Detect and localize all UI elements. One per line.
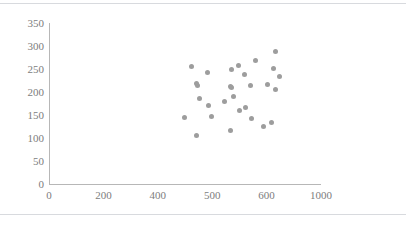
scatter-point — [194, 133, 199, 138]
scatter-point — [229, 85, 234, 90]
x-tick-label: 1000 — [299, 190, 343, 201]
scatter-point — [195, 83, 200, 88]
y-tick-label: 150 — [4, 110, 44, 121]
scatter-point — [269, 120, 274, 125]
y-tick-label: 300 — [4, 41, 44, 52]
scatter-point — [229, 67, 234, 72]
x-tick-label: 200 — [81, 190, 125, 201]
plot-area — [49, 23, 321, 184]
scatter-point — [271, 66, 276, 71]
scatter-point — [209, 114, 214, 119]
y-tick-label: 250 — [4, 64, 44, 75]
scatter-point — [222, 99, 227, 104]
scatter-point — [273, 87, 278, 92]
scatter-point — [236, 63, 241, 68]
scatter-point — [277, 74, 282, 79]
scatter-point — [249, 116, 254, 121]
x-tick-label: 600 — [245, 190, 289, 201]
y-tick-label: 350 — [4, 18, 44, 29]
scatter-chart: 050100150200250300350 02004005006001000 — [0, 0, 406, 231]
x-axis-line — [49, 184, 321, 185]
x-tick-label: 400 — [136, 190, 180, 201]
scatter-point — [243, 105, 248, 110]
scatter-point — [228, 128, 233, 133]
chart-figure: 050100150200250300350 02004005006001000 — [0, 0, 406, 231]
scatter-point — [182, 115, 187, 120]
scatter-point — [261, 124, 266, 129]
scatter-point — [242, 72, 247, 77]
scatter-point — [197, 96, 202, 101]
scatter-point — [253, 58, 258, 63]
y-tick-label: 100 — [4, 133, 44, 144]
scatter-point — [265, 82, 270, 87]
scatter-point — [205, 70, 210, 75]
y-tick-label: 50 — [4, 156, 44, 167]
scatter-point — [248, 83, 253, 88]
scatter-point — [273, 49, 278, 54]
x-tick-label: 500 — [190, 190, 234, 201]
y-tick-label: 200 — [4, 87, 44, 98]
x-tick-label: 0 — [27, 190, 71, 201]
scatter-point — [206, 103, 211, 108]
scatter-point — [189, 64, 194, 69]
scatter-point — [231, 94, 236, 99]
y-tick-label: 0 — [4, 179, 44, 190]
scatter-point — [237, 108, 242, 113]
